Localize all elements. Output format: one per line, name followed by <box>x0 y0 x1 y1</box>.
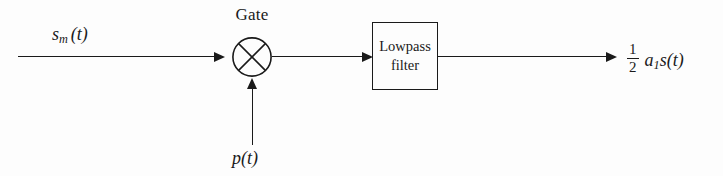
pulse-wire <box>252 88 253 145</box>
filter-label-line1: Lowpass <box>379 37 431 56</box>
input-signal-base: s <box>52 24 59 44</box>
diagram-canvas: sm(t) Gate p(t) Lowpass filter 1 2 a1s(t… <box>0 0 723 176</box>
fraction-denominator: 2 <box>627 60 639 75</box>
fraction-numerator: 1 <box>627 42 639 57</box>
gate-multiplier-icon <box>232 37 272 77</box>
pulse-arrowhead <box>247 78 257 89</box>
input-signal-label: sm(t) <box>52 24 88 47</box>
pulse-signal-arg: (t) <box>241 148 258 168</box>
output-wire <box>438 56 606 57</box>
filter-label-line2: filter <box>391 56 419 75</box>
lowpass-filter-block: Lowpass filter <box>372 22 438 90</box>
output-coefficient-base: a <box>645 50 654 70</box>
one-half-fraction: 1 2 <box>627 42 639 76</box>
output-arrowhead <box>606 52 617 62</box>
output-signal-label: 1 2 a1s(t) <box>627 42 684 76</box>
input-wire <box>18 56 214 57</box>
input-signal-subscript: m <box>59 32 68 46</box>
pulse-signal-base: p <box>232 148 241 168</box>
gate-to-filter-wire <box>272 56 362 57</box>
input-arrowhead <box>214 52 225 62</box>
pulse-signal-label: p(t) <box>232 148 258 169</box>
output-signal-arg: (t) <box>667 50 684 70</box>
gate-label: Gate <box>212 5 292 25</box>
output-signal-base: s <box>660 50 667 70</box>
input-signal-arg: (t) <box>71 24 88 44</box>
